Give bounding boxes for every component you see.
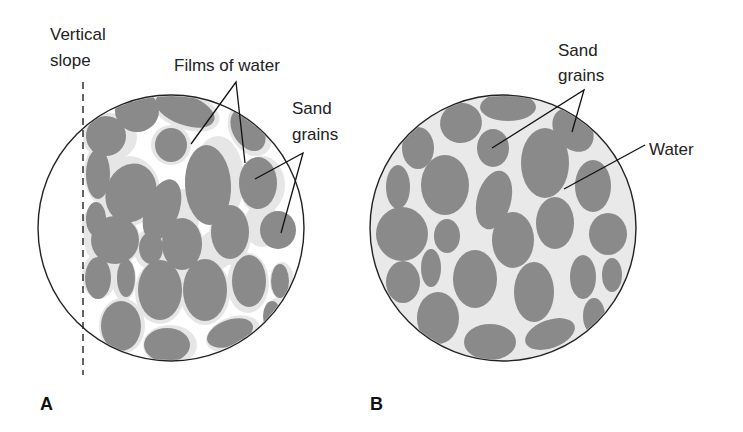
panel-a: Vertical slope Films of water Sand grain… <box>38 25 338 414</box>
panel-label-b: B <box>370 394 383 414</box>
label-water: Water <box>649 140 694 159</box>
label-vertical-slope-1: Vertical <box>50 25 106 44</box>
label-sand-grains-a-1: Sand <box>292 99 332 118</box>
label-vertical-slope-2: slope <box>50 51 91 70</box>
label-sand-grains-b-2: grains <box>558 66 604 85</box>
label-films-of-water: Films of water <box>174 56 280 75</box>
panel-label-a: A <box>40 394 53 414</box>
panel-b: Sand grains Water B <box>370 41 694 414</box>
label-sand-grains-a-2: grains <box>292 125 338 144</box>
sand-water-diagram: Vertical slope Films of water Sand grain… <box>0 0 743 432</box>
label-sand-grains-b-1: Sand <box>558 41 598 60</box>
